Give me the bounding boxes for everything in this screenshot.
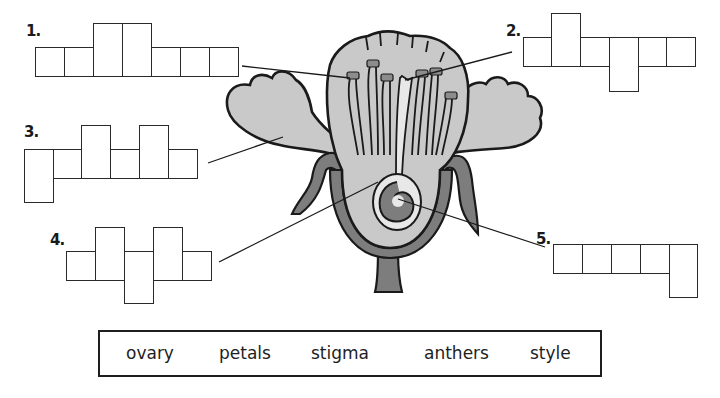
puzzle-1-cell-7[interactable] xyxy=(209,47,239,77)
puzzle-5-cell-1[interactable] xyxy=(553,244,583,274)
word-bank-style: style xyxy=(530,343,571,363)
puzzle-4-cell-2[interactable] xyxy=(95,227,125,281)
puzzle-3-cell-3[interactable] xyxy=(81,125,111,179)
puzzle-3-cell-4[interactable] xyxy=(110,149,140,179)
puzzle-1-number: 1. xyxy=(26,22,40,40)
puzzle-2-cell-6[interactable] xyxy=(666,37,696,67)
puzzle-4-cell-1[interactable] xyxy=(66,251,96,281)
puzzle-5-cell-4[interactable] xyxy=(640,244,670,274)
word-bank: ovary petals stigma anthers style xyxy=(98,330,602,377)
puzzle-3-cell-1[interactable] xyxy=(24,149,54,203)
puzzle-2-cell-5[interactable] xyxy=(638,37,667,67)
puzzle-1-cell-3[interactable] xyxy=(93,23,123,77)
puzzle-4-cell-3[interactable] xyxy=(124,251,154,304)
leader-3 xyxy=(208,137,283,163)
word-bank-anthers: anthers xyxy=(424,343,489,363)
puzzle-5-cell-3[interactable] xyxy=(611,244,641,274)
puzzle-1-cell-5[interactable] xyxy=(151,47,181,77)
puzzle-1-cell-2[interactable] xyxy=(64,47,94,77)
puzzle-2-cell-4[interactable] xyxy=(609,37,639,92)
puzzle-5-cell-5[interactable] xyxy=(669,244,698,298)
puzzle-3-cell-5[interactable] xyxy=(139,125,169,179)
puzzle-3-number: 3. xyxy=(24,123,38,141)
puzzle-4-number: 4. xyxy=(50,231,64,249)
puzzle-2-cell-1[interactable] xyxy=(523,37,552,67)
puzzle-3-cell-2[interactable] xyxy=(53,149,82,179)
word-bank-ovary: ovary xyxy=(126,343,174,363)
word-bank-petals: petals xyxy=(219,343,271,363)
puzzle-5-number: 5. xyxy=(536,230,550,248)
puzzle-1-cell-1[interactable] xyxy=(35,47,65,77)
puzzle-2-cell-3[interactable] xyxy=(580,37,610,67)
puzzle-1-cell-4[interactable] xyxy=(122,23,152,77)
puzzle-5-cell-2[interactable] xyxy=(582,244,612,274)
puzzle-2-number: 2. xyxy=(506,22,520,40)
puzzle-4-cell-4[interactable] xyxy=(153,227,183,281)
puzzle-2-cell-2[interactable] xyxy=(551,13,581,67)
worksheet: 1. 2. 3. 4. 5. xyxy=(0,0,720,398)
puzzle-1-cell-6[interactable] xyxy=(180,47,210,77)
puzzle-3-cell-6[interactable] xyxy=(168,149,198,179)
word-bank-stigma: stigma xyxy=(311,343,369,363)
puzzle-4-cell-5[interactable] xyxy=(182,251,212,281)
